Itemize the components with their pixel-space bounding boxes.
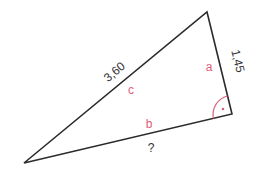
right-angle-dot [222,108,225,111]
side-a-letter: a [206,60,213,74]
side-a-value: 1,45 [228,48,247,74]
side-c-letter: c [128,83,134,97]
triangle-diagram: 3,60 c 1,45 a b ? [0,0,255,173]
side-b-value: ? [148,141,155,155]
side-b-letter: b [146,117,153,131]
